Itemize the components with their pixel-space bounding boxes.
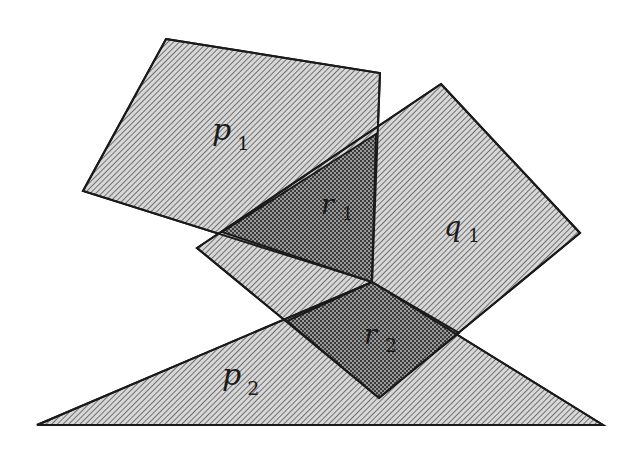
polygon-intersection-diagram: p 1 r 1 q 1 r 2 p 2 bbox=[0, 0, 633, 459]
